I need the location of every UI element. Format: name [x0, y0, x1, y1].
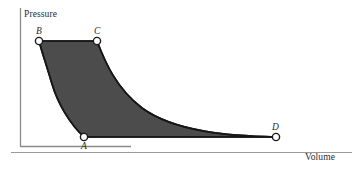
state-point-a-label: A — [81, 142, 87, 152]
state-point-b-marker — [35, 37, 42, 44]
state-point-d-marker — [272, 133, 279, 140]
work-region-shape — [39, 41, 276, 137]
state-point-a-marker — [80, 133, 87, 140]
volume-axis-title: Volume — [305, 153, 335, 163]
pv-diagram-canvas — [0, 0, 355, 172]
pressure-volume-figure: Pressure Volume A B C D — [0, 0, 355, 172]
state-point-d-label: D — [272, 123, 279, 133]
pressure-axis-title: Pressure — [24, 10, 57, 20]
state-point-c-marker — [93, 37, 100, 44]
state-point-c-label: C — [94, 27, 100, 37]
state-point-b-label: B — [36, 27, 42, 37]
